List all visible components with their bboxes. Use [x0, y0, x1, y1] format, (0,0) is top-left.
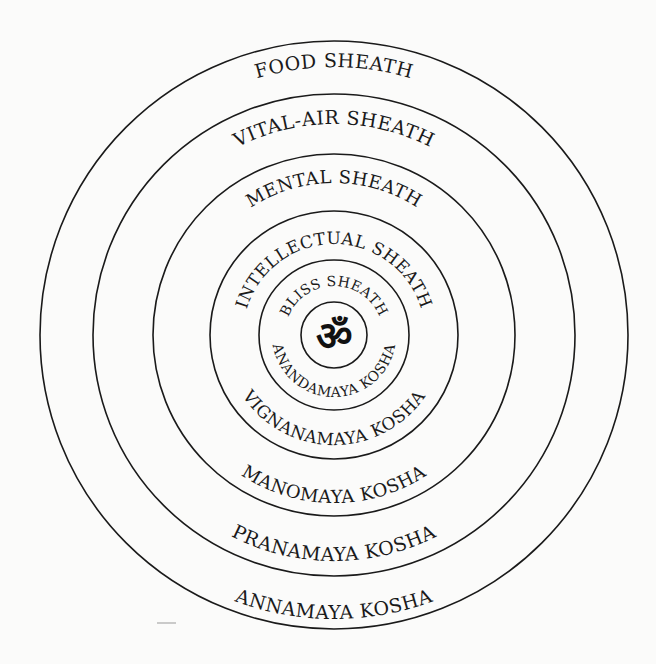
label-intellectual-sheath: INTELLECTUAL SHEATH: [231, 228, 436, 311]
label-bliss-sheath: BLISS SHEATH: [276, 273, 391, 319]
om-symbol-icon: ॐ: [316, 313, 352, 359]
label-annamaya-kosha: ANNAMAYA KOSHA: [232, 584, 435, 623]
label-mental-sheath: MENTAL SHEATH: [242, 166, 426, 211]
koshas-diagram: FOOD SHEATH VITAL-AIR SHEATH MENTAL SHEA…: [0, 0, 656, 664]
label-food-sheath: FOOD SHEATH: [252, 49, 416, 82]
label-manomaya-kosha: MANOMAYA KOSHA: [239, 460, 430, 507]
label-pranamaya-kosha: PRANAMAYA KOSHA: [229, 520, 439, 565]
label-vital-air-sheath: VITAL-AIR SHEATH: [229, 106, 439, 151]
